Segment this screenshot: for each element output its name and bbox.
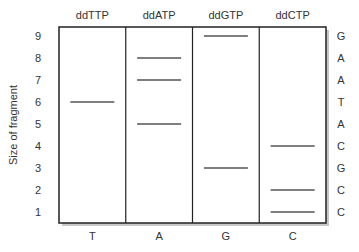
y-axis-label: Size of fragment	[7, 85, 19, 165]
sequence-base: G	[337, 30, 346, 42]
size-tick-label: 1	[35, 206, 41, 218]
sequence-base: C	[337, 206, 345, 218]
lane-base-label: T	[89, 230, 96, 242]
lane-base-label: G	[222, 230, 231, 242]
size-tick-label: 5	[35, 118, 41, 130]
sequence-base: A	[337, 118, 345, 130]
size-ticks: 123456789	[35, 30, 41, 218]
gel-diagram: Size of fragment ddTTPTddATPAddGTPGddCTP…	[0, 0, 359, 252]
lane-base-label: A	[155, 230, 163, 242]
size-tick-label: 4	[35, 140, 41, 152]
read-sequence: GAATACGCC	[337, 30, 346, 218]
size-tick-label: 8	[35, 52, 41, 64]
size-tick-label: 9	[35, 30, 41, 42]
lane-header: ddCTP	[276, 9, 310, 21]
gel-frame	[59, 27, 329, 226]
lane-base-label: C	[289, 230, 297, 242]
lane-header: ddGTP	[208, 9, 243, 21]
sequence-base: A	[337, 74, 345, 86]
sequence-base: A	[337, 52, 345, 64]
size-tick-label: 7	[35, 74, 41, 86]
size-tick-label: 3	[35, 162, 41, 174]
sequence-base: G	[337, 162, 346, 174]
sequence-base: C	[337, 184, 345, 196]
size-tick-label: 6	[35, 96, 41, 108]
size-tick-label: 2	[35, 184, 41, 196]
lane-header: ddATP	[143, 9, 176, 21]
lane-header: ddTTP	[76, 9, 109, 21]
sequence-base: C	[337, 140, 345, 152]
sequence-base: T	[338, 96, 345, 108]
